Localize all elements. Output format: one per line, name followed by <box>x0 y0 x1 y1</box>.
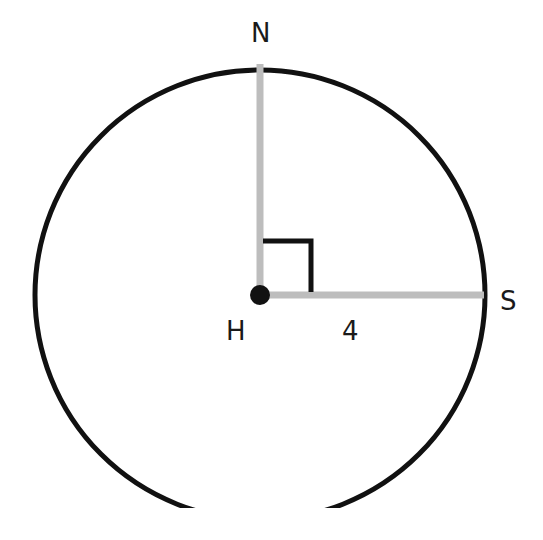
label-h: H <box>226 316 246 346</box>
right-angle-marker <box>263 241 311 292</box>
diagram-canvas: N S H 4 <box>0 0 543 540</box>
center-point <box>250 285 270 305</box>
label-s: S <box>500 286 517 316</box>
label-length: 4 <box>342 316 359 346</box>
label-n: N <box>251 18 270 48</box>
